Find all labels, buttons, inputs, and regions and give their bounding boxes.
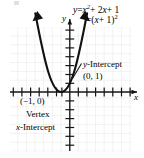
parabola-figure: y=x2+ 2x+ 1 =(x+ 1)2 y-Intercept (0, 1) …	[0, 0, 144, 158]
equation2-exponent-2: 2	[114, 13, 117, 20]
y-intercept-coordinates: (0, 1)	[83, 72, 103, 81]
x-axis-name: x	[134, 93, 138, 102]
equation2-plus-one: + 1	[99, 15, 111, 25]
equation-line-2: =(x+ 1)2	[86, 14, 118, 26]
graph-canvas	[0, 0, 144, 158]
vertex-label: Vertex	[26, 110, 50, 119]
y-intercept-label-text: -Intercept	[87, 59, 122, 69]
vertex-coordinates: (−1, 0)	[20, 97, 45, 106]
y-intercept-label: y-Intercept	[83, 60, 122, 69]
y-axis-name: y	[62, 14, 66, 23]
x-intercept-label: x-Intercept	[16, 123, 55, 132]
x-intercept-label-text: -Intercept	[20, 122, 55, 132]
